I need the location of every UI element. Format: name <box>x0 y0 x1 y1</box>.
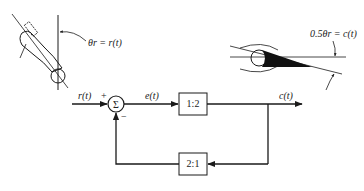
angle-arrow-bottom <box>326 74 334 90</box>
upper-arc <box>240 44 278 50</box>
input-label: r(t) <box>78 90 92 102</box>
error-label: e(t) <box>145 90 160 102</box>
wedge-illustration: 0.5θr = c(t) <box>230 28 358 90</box>
output-label: c(t) <box>279 90 294 102</box>
plus-sign: + <box>101 90 107 101</box>
forward-block-label: 1:2 <box>187 98 200 109</box>
angle-arrow <box>60 32 86 41</box>
arm-handle <box>24 22 37 37</box>
theta-r-annotation: θr = r(t) <box>88 37 123 49</box>
reference-arm-illustration: θr = r(t) <box>12 14 123 90</box>
sigma-symbol: Σ <box>113 99 119 110</box>
half-theta-annotation: 0.5θr = c(t) <box>310 28 358 40</box>
diagram-canvas: θr = r(t) 0.5θr = c(t) r(t) + Σ − e(t) <box>0 0 364 191</box>
minus-sign: − <box>121 111 127 122</box>
arm-axis-line <box>12 14 68 88</box>
feedback-block-label: 2:1 <box>187 158 200 169</box>
block-diagram: r(t) + Σ − e(t) 1:2 c(t) 2:1 <box>72 90 302 175</box>
arm-body <box>20 31 62 72</box>
angle-arrow-top <box>333 41 335 56</box>
